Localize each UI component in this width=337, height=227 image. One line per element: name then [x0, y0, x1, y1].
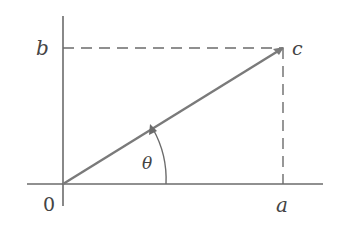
- angle-arc: [153, 129, 166, 184]
- label-theta: θ: [142, 153, 152, 173]
- label-a: a: [276, 193, 288, 217]
- label-c: c: [292, 37, 303, 59]
- diagram-canvas: b c 0 a θ: [0, 0, 337, 227]
- vector-line: [63, 48, 283, 184]
- label-b: b: [36, 36, 49, 60]
- label-origin: 0: [43, 193, 55, 215]
